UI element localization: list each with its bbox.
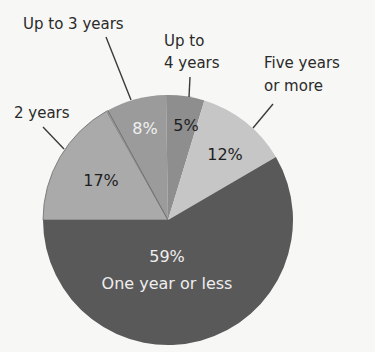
pie-chart: Up to 3 years Up to 4 years Five years o… (0, 0, 375, 352)
label-up-to-4-years-line1: Up to (164, 30, 204, 52)
pct-up-to-3: 8% (132, 119, 157, 139)
leader-line-2-years (43, 127, 64, 149)
label-up-to-4-years-line2: 4 years (164, 52, 220, 74)
leader-line-five-plus (253, 104, 273, 128)
pct-five-plus: 12% (207, 145, 243, 165)
leader-line-up-to-3 (106, 37, 131, 100)
label-up-to-3-years: Up to 3 years (23, 13, 124, 35)
label-five-years-line2: or more (264, 75, 323, 97)
label-five-years-line1: Five years (264, 52, 340, 74)
pct-up-to-4: 5% (173, 116, 198, 136)
pct-one-or-less: 59% (149, 247, 185, 267)
label-one-year-or-less: One year or less (102, 274, 233, 294)
label-2-years: 2 years (14, 102, 70, 124)
pct-2-years: 17% (83, 171, 119, 191)
pie-slices (43, 95, 293, 345)
leader-line-up-to-4 (189, 77, 190, 97)
